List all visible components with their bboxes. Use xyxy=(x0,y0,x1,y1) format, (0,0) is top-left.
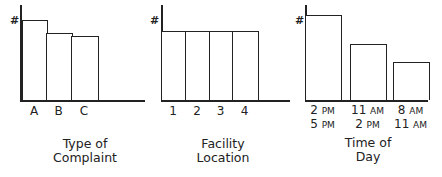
chart-title: Time ofDay xyxy=(345,136,392,164)
tick-label-3: 8 AM11 AM xyxy=(394,104,427,132)
bar-2 xyxy=(350,44,387,100)
y-axis-label: # xyxy=(295,14,304,27)
bar-3 xyxy=(393,62,430,100)
bar-1 xyxy=(305,15,342,100)
tick-label-2: 11 AM2 PM xyxy=(351,104,384,132)
tick-label-1: 2 PM5 PM xyxy=(310,104,335,132)
x-axis xyxy=(305,100,428,102)
chart-3: #2 PM5 PM11 AM2 PM8 AM11 AMTime ofDay xyxy=(0,0,442,177)
